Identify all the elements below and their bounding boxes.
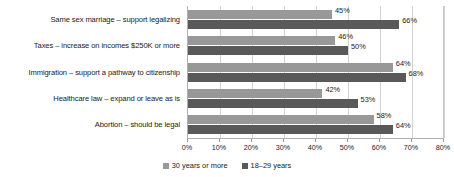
bar-value-label: 66% — [402, 16, 417, 25]
bar-value-label: 45% — [335, 6, 350, 15]
bar-group: 58%64% — [188, 115, 444, 134]
bar-value-label: 68% — [409, 69, 424, 78]
bar-group: 46%50% — [188, 36, 444, 55]
x-axis-tick — [251, 139, 252, 142]
x-axis-tick-label: 50% — [340, 143, 354, 152]
x-axis-tick — [315, 139, 316, 142]
category-label: Abortion – should be legal — [0, 120, 180, 129]
x-axis-tick-label: 40% — [308, 143, 322, 152]
bar-older — [188, 10, 332, 19]
gridline — [444, 6, 445, 138]
legend-item: 18–29 years — [242, 161, 292, 170]
grouped-bar-chart: Same sex marriage – support legalizingTa… — [0, 0, 454, 177]
bar-older — [188, 36, 335, 45]
x-axis-tick-label: 80% — [436, 143, 450, 152]
x-axis-tick — [411, 139, 412, 142]
bar-value-label: 46% — [338, 32, 353, 41]
legend-label: 18–29 years — [251, 161, 292, 170]
bar-younger — [188, 73, 406, 82]
x-axis-tick-label: 10% — [212, 143, 226, 152]
category-label: Same sex marriage – support legalizing — [0, 15, 180, 24]
x-axis-tick-label: 60% — [372, 143, 386, 152]
x-axis-tick — [283, 139, 284, 142]
bar-older — [188, 89, 322, 98]
bar-younger — [188, 20, 399, 29]
legend-item: 30 years or more — [163, 161, 228, 170]
plot-area: 45%66%46%50%64%68%42%53%58%64% — [187, 6, 444, 139]
category-label: Taxes – increase on incomes $250K or mor… — [0, 41, 180, 50]
bar-group: 42%53% — [188, 89, 444, 108]
bar-older — [188, 115, 374, 124]
bar-value-label: 42% — [325, 85, 340, 94]
x-axis: 0%10%20%30%40%50%60%70%80% — [187, 139, 443, 153]
category-label: Healthcare law – expand or leave as is — [0, 94, 180, 103]
x-axis-tick — [219, 139, 220, 142]
bar-younger — [188, 125, 393, 134]
bar-value-label: 50% — [351, 42, 366, 51]
chart-legend: 30 years or more18–29 years — [0, 161, 454, 170]
bar-younger — [188, 99, 358, 108]
x-axis-tick-label: 0% — [182, 143, 192, 152]
bar-older — [188, 63, 393, 72]
bar-younger — [188, 46, 348, 55]
legend-swatch-icon — [242, 163, 248, 169]
bar-value-label: 64% — [396, 121, 411, 130]
bar-value-label: 64% — [396, 59, 411, 68]
x-axis-tick — [443, 139, 444, 142]
bar-group: 64%68% — [188, 63, 444, 82]
x-axis-tick-label: 30% — [276, 143, 290, 152]
x-axis-tick-label: 20% — [244, 143, 258, 152]
legend-swatch-icon — [163, 163, 169, 169]
bar-value-label: 58% — [377, 111, 392, 120]
bar-value-label: 53% — [361, 95, 376, 104]
category-label: Immigration – support a pathway to citiz… — [0, 68, 180, 77]
category-axis-labels: Same sex marriage – support legalizingTa… — [0, 6, 184, 138]
legend-label: 30 years or more — [172, 161, 228, 170]
x-axis-tick — [187, 139, 188, 142]
x-axis-tick-label: 70% — [404, 143, 418, 152]
x-axis-tick — [347, 139, 348, 142]
bar-group: 45%66% — [188, 10, 444, 29]
x-axis-tick — [379, 139, 380, 142]
